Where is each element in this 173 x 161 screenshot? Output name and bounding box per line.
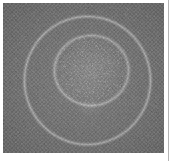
page-gutter-rule — [168, 0, 169, 161]
figure-panel — [3, 3, 164, 153]
grayscale-ring-figure-canvas — [3, 3, 164, 153]
page-root — [0, 0, 173, 161]
